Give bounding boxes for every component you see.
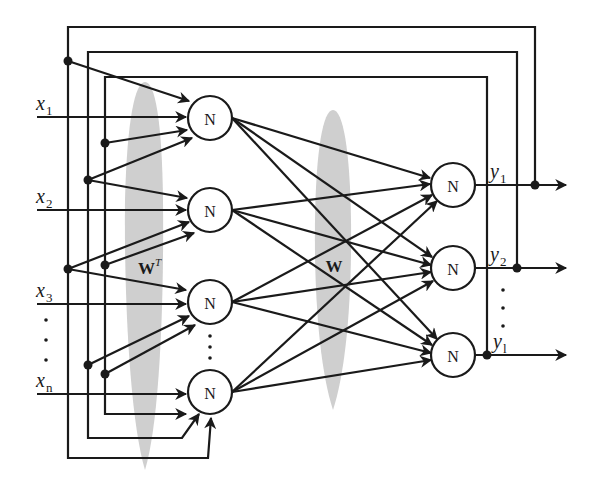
svg-text:N: N bbox=[204, 203, 216, 220]
svg-text:N: N bbox=[447, 261, 459, 278]
output-neuron-1: N bbox=[431, 163, 475, 207]
svg-text:N: N bbox=[447, 348, 459, 365]
output-label-y2: y2 bbox=[488, 243, 506, 269]
junction-dot bbox=[101, 370, 110, 379]
input-label-x3: x3 bbox=[35, 279, 52, 305]
svg-text:N: N bbox=[204, 111, 216, 128]
svg-text:N: N bbox=[447, 178, 459, 195]
output-label-yl: yl bbox=[491, 330, 507, 356]
input-neuron-2: N bbox=[188, 188, 232, 232]
junction-dot bbox=[64, 57, 73, 66]
output-junction-y2 bbox=[513, 264, 522, 273]
bam-network-diagram: N N N N N N N x1 x2 bbox=[0, 0, 592, 492]
junction-dot bbox=[101, 261, 110, 270]
output-junction-yl bbox=[483, 351, 492, 360]
junction-dot bbox=[101, 139, 110, 148]
output-label-y1: y1 bbox=[488, 160, 506, 186]
input-label-xn: xn bbox=[35, 369, 53, 395]
input-label-x1: x1 bbox=[35, 92, 52, 118]
junction-dot bbox=[84, 361, 93, 370]
output-neuron-l: N bbox=[431, 333, 475, 377]
output-ellipsis bbox=[501, 288, 505, 328]
output-neuron-2: N bbox=[431, 246, 475, 290]
junction-dot bbox=[84, 176, 93, 185]
input-neuron-ellipsis bbox=[208, 334, 212, 360]
input-neuron-n: N bbox=[188, 370, 232, 414]
junction-dot bbox=[64, 265, 73, 274]
svg-text:N: N bbox=[204, 385, 216, 402]
input-neuron-1: N bbox=[188, 96, 232, 140]
input-label-x2: x2 bbox=[35, 185, 52, 211]
output-junction-y1 bbox=[531, 181, 540, 190]
input-neuron-3: N bbox=[188, 280, 232, 324]
weight-label-w: W bbox=[326, 257, 343, 276]
svg-text:N: N bbox=[204, 295, 216, 312]
input-ellipsis bbox=[44, 318, 48, 362]
tap-outer-node1 bbox=[68, 61, 189, 101]
